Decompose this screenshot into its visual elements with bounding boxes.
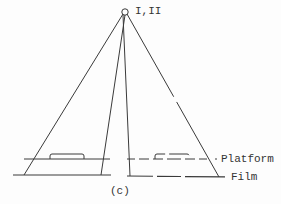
platform-label: Platform — [221, 154, 274, 165]
object-right — [155, 154, 189, 159]
right-inner-ray — [123, 15, 130, 176]
right-outer-ray — [127, 14, 219, 177]
film-line-right — [127, 176, 230, 177]
left-inner-ray — [101, 15, 125, 175]
film-label: Film — [231, 172, 257, 183]
figure-caption: (c) — [110, 186, 130, 197]
source-label: I,II — [135, 6, 161, 17]
diagram-canvas: I,II Platform Film (c) — [0, 0, 281, 204]
object-left — [50, 154, 84, 159]
left-outer-ray — [24, 14, 123, 175]
